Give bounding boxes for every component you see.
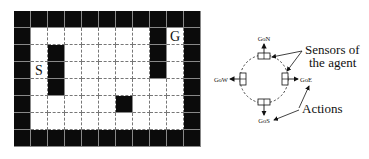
sensor-south	[258, 99, 270, 105]
sensor-north	[258, 53, 270, 59]
sensors-label-line2: the agent	[309, 55, 357, 70]
action-label-east: GoE	[300, 76, 312, 83]
action-label-south: GoS	[258, 117, 270, 124]
agent-body-circle	[240, 55, 288, 103]
actions-pointer-south	[274, 110, 299, 120]
sensor-west	[240, 73, 246, 85]
sensors-pointer-east	[287, 51, 302, 71]
action-label-north: GoN	[258, 35, 271, 42]
actions-label: Actions	[302, 101, 342, 116]
sensor-east	[282, 73, 288, 85]
agent-diagram: GoN GoS GoW GoE Sensors of the agent Act…	[0, 0, 369, 159]
sensors-pointer-north	[272, 51, 302, 57]
action-label-west: GoW	[214, 76, 229, 83]
